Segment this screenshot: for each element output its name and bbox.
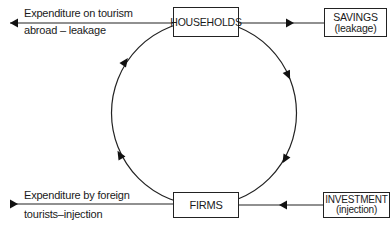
firms-label: FIRMS xyxy=(189,200,222,211)
savings-arrow-icon xyxy=(286,19,294,28)
tourism-leakage-label-line2: abroad – leakage xyxy=(24,24,106,36)
firms-box: FIRMS xyxy=(173,192,239,218)
leakage-arrow-icon xyxy=(10,19,18,28)
households-box: HOUSEHOLDS xyxy=(173,7,239,37)
savings-label: SAVINGS xyxy=(333,12,378,23)
tourism-injection-label-line2: tourists–injection xyxy=(24,208,102,220)
households-label: HOUSEHOLDS xyxy=(170,17,242,28)
investment-box: INVESTMENT (injection) xyxy=(323,192,390,218)
savings-sublabel: (leakage) xyxy=(335,23,377,34)
injection-arrow-icon xyxy=(10,200,18,209)
tourism-injection-label-line1: Expenditure by foreign xyxy=(24,189,130,201)
circular-flow-loop xyxy=(112,21,297,206)
flow-arrow-icon xyxy=(283,70,294,82)
tourism-leakage-label-line1: Expenditure on tourism xyxy=(24,7,133,19)
savings-box: SAVINGS (leakage) xyxy=(324,8,387,37)
investment-sublabel: (injection) xyxy=(336,205,377,216)
investment-arrow-icon xyxy=(279,201,287,210)
